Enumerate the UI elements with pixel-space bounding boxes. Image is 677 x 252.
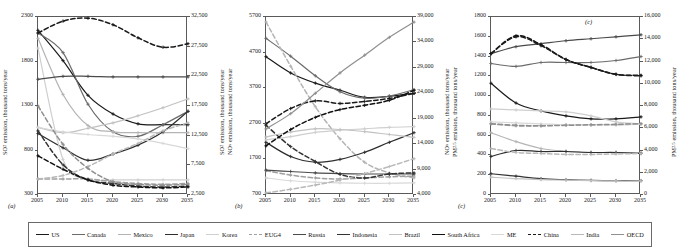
- x-tickmark: [640, 194, 641, 197]
- y-tickmark-right: [640, 83, 643, 84]
- x-tick-label: 2005: [479, 197, 501, 203]
- y-tickmark-left: [263, 52, 266, 53]
- y-tick-label-right: 4,000: [644, 146, 658, 152]
- y-tick-label-right: 7,500: [191, 160, 205, 166]
- series-marker: [36, 46, 39, 49]
- series-marker: [338, 102, 341, 105]
- series-marker: [111, 135, 114, 138]
- legend-label: Mexico: [133, 231, 152, 238]
- series-marker: [514, 140, 517, 143]
- y-tick-label-right: 39,000: [417, 12, 434, 18]
- series-line: [38, 99, 188, 133]
- series-marker: [314, 183, 317, 186]
- series-marker: [388, 182, 391, 185]
- series-marker: [86, 133, 89, 136]
- y-tick-label-right: 6,000: [644, 123, 658, 129]
- x-tickmark: [137, 194, 138, 197]
- series-marker: [564, 114, 567, 117]
- x-tickmark: [413, 194, 414, 197]
- series-marker: [589, 114, 592, 117]
- series-marker: [589, 153, 592, 156]
- series-marker: [161, 106, 164, 109]
- x-tick-label: 2010: [51, 197, 73, 203]
- series-marker: [289, 173, 292, 176]
- y-tick-label-left: 5700: [231, 12, 261, 18]
- series-marker: [136, 75, 139, 78]
- y-tickmark-left: [263, 158, 266, 159]
- y-tick-label-right: 27,500: [191, 42, 208, 48]
- y-tick-label-right: 10,000: [644, 79, 661, 85]
- y-tick-label-right: 4,000: [417, 190, 431, 196]
- x-tickmark: [590, 194, 591, 197]
- series-marker: [489, 147, 492, 150]
- y-tickmark-left: [35, 61, 38, 62]
- series-marker: [589, 123, 592, 126]
- series-marker: [314, 99, 317, 102]
- series-marker: [539, 61, 542, 64]
- legend-item-us: US: [36, 231, 60, 238]
- series-marker: [36, 78, 39, 81]
- y-tickmark-right: [640, 105, 643, 106]
- series-marker: [564, 153, 567, 156]
- legend-item-eug4: EUG4: [249, 231, 281, 238]
- legend-label: US: [52, 231, 60, 238]
- x-tick-label: 2030: [377, 197, 399, 203]
- y-tick-label-right: 12,500: [191, 131, 208, 137]
- legend-item-china: China: [528, 231, 559, 238]
- series-line: [491, 83, 641, 119]
- series-marker: [363, 176, 366, 179]
- y-tick-label-left: 800: [456, 111, 486, 117]
- y-tick-label-right: 0: [644, 190, 647, 196]
- y-tick-label-left: 2300: [3, 12, 33, 18]
- y-tickmark-right: [640, 61, 643, 62]
- y-tickmark-right: [187, 75, 190, 76]
- panel-a-curves: [38, 17, 188, 195]
- legend-swatch-icon: [337, 234, 350, 235]
- y-tickmark-left: [263, 87, 266, 88]
- series-marker: [539, 147, 542, 150]
- series-marker: [514, 177, 517, 180]
- y-tick-label-right: 9,000: [417, 165, 431, 171]
- panel-a-plot-area: [37, 16, 187, 194]
- series-marker: [412, 136, 415, 139]
- series-marker: [314, 81, 317, 84]
- y-tick-label-left: 800: [3, 146, 33, 152]
- series-marker: [186, 147, 189, 150]
- legend-item-brazil: Brazil: [389, 231, 420, 238]
- series-marker: [589, 37, 592, 40]
- series-russia: [489, 33, 642, 55]
- legend-swatch-icon: [432, 234, 445, 235]
- legend-label: India: [586, 231, 599, 238]
- y-tickmark-left: [488, 16, 491, 17]
- x-tickmark: [540, 194, 541, 197]
- legend-item-russia: Russia: [293, 231, 325, 238]
- series-marker: [363, 182, 366, 185]
- series-marker: [539, 152, 542, 155]
- series-marker: [388, 126, 391, 129]
- series-marker: [639, 179, 642, 182]
- y-tick-label-left: 1300: [3, 101, 33, 107]
- y-tick-label-right: 19,000: [417, 114, 434, 120]
- series-line: [491, 37, 641, 76]
- y-tick-label-left: 400: [456, 150, 486, 156]
- y-tickmark-right: [413, 67, 416, 68]
- panel-c-ylabel-right: PM2.5 emission, thousand tons/year: [671, 32, 677, 192]
- legend-swatch-icon: [611, 234, 624, 235]
- series-marker: [489, 62, 492, 65]
- series-marker: [289, 170, 292, 173]
- series-marker: [136, 131, 139, 134]
- y-tick-label-left: 200: [456, 170, 486, 176]
- y-tick-label-right: 16,000: [644, 12, 661, 18]
- y-tickmark-right: [640, 150, 643, 151]
- x-tick-label: 2035: [629, 197, 651, 203]
- y-tickmark-right: [640, 172, 643, 173]
- series-marker: [161, 178, 164, 181]
- series-marker: [363, 104, 366, 107]
- series-mexico: [36, 37, 189, 135]
- panel-a: SO2 emission, thousand tons/year SO2 emi…: [0, 0, 225, 218]
- series-line: [38, 106, 188, 185]
- y-tickmark-left: [488, 115, 491, 116]
- series-marker: [564, 110, 567, 113]
- y-tick-label-left: 300: [3, 190, 33, 196]
- legend-label: Korea: [222, 231, 237, 238]
